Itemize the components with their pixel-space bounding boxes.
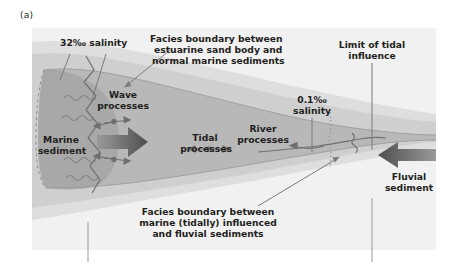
label-facies-top-line3: normal marine sediments xyxy=(152,56,285,67)
label-facies-bottom-line1: Facies boundary between xyxy=(128,207,288,218)
label-limit-tidal-line2: influence xyxy=(334,51,410,62)
figure-panel: (a) xyxy=(0,0,452,264)
label-wave-line2: processes xyxy=(92,101,154,112)
label-tidal-line1: Tidal xyxy=(186,133,224,144)
label-facies-top-line2: estuarine sand body and xyxy=(154,45,282,56)
label-marine-line1: Marine xyxy=(36,135,86,146)
label-fluvial-line1: Fluvial xyxy=(386,172,432,183)
label-facies-bottom-line3: and fluvial sediments xyxy=(128,229,288,240)
label-salinity-32: 32‰ salinity xyxy=(60,38,127,49)
label-tidal-line2: processes xyxy=(178,144,234,155)
label-limit-tidal-line1: Limit of tidal xyxy=(334,40,410,51)
label-wave-line1: Wave xyxy=(100,90,146,101)
label-river-line1: River xyxy=(244,124,282,135)
label-fluvial-line2: sediment xyxy=(380,183,438,194)
label-river-line2: processes xyxy=(234,135,292,146)
label-facies-top-line1: Facies boundary between xyxy=(150,34,283,45)
label-facies-bottom-line2: marine (tidally) influenced xyxy=(128,218,288,229)
label-salinity-01-line2: salinity xyxy=(286,106,338,117)
label-marine-line2: sediment xyxy=(32,146,92,157)
label-salinity-01-line1: 0.1‰ xyxy=(288,95,336,106)
